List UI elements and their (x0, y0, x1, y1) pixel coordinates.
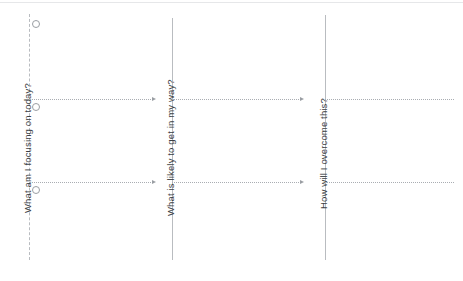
connector-overcome-trailing (325, 99, 454, 100)
focus-bullet-1[interactable] (32, 20, 40, 28)
arrow-head-focus-to-obstacles (152, 97, 156, 101)
top-edge-line (0, 2, 463, 3)
focus-bullet-3[interactable] (32, 186, 40, 194)
connector-obstacles-to-overcome-2 (172, 182, 301, 183)
column-focus-label: What am I focusing on today? (22, 83, 33, 213)
connector-obstacles-to-overcome (172, 99, 301, 100)
arrow-head-focus-to-obstacles-2 (152, 180, 156, 184)
arrow-head-obstacles-to-overcome-2 (300, 180, 304, 184)
worksheet-canvas: What am I focusing on today? What is lik… (0, 0, 463, 281)
arrow-head-obstacles-to-overcome (300, 97, 304, 101)
focus-bullet-2[interactable] (32, 103, 40, 111)
connector-focus-to-obstacles (29, 99, 153, 100)
connector-overcome-trailing-2 (325, 182, 454, 183)
column-overcome-label: How will I overcome this? (318, 98, 329, 209)
connector-focus-to-obstacles-2 (29, 182, 153, 183)
